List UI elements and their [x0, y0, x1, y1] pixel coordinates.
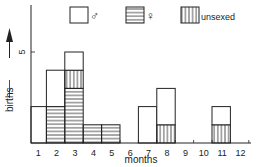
bar-segment-male-month-1	[31, 107, 46, 143]
bar-segment-male-month-2	[46, 70, 64, 106]
births-by-month-chart: 123456789101112 5 months births ♂♀unsexe…	[0, 0, 260, 167]
x-tick-label-12: 12	[236, 148, 246, 158]
x-tick-label-2: 2	[54, 148, 59, 158]
x-tick-label-5: 5	[109, 148, 114, 158]
bar-segment-unsexed-month-8	[157, 125, 175, 143]
legend-swatch-open	[70, 7, 88, 23]
legend-swatch-horizontal-stripes	[126, 7, 144, 23]
bar-segment-male-month-3	[65, 52, 83, 70]
x-tick-label-9: 9	[183, 148, 188, 158]
x-axis-label: months	[125, 154, 158, 165]
x-tick-label-8: 8	[164, 148, 169, 158]
x-tick-label-1: 1	[36, 148, 41, 158]
x-tick-label-11: 11	[218, 148, 227, 158]
bar-segment-female-month-5	[102, 125, 120, 143]
bar-segment-male-month-11	[212, 107, 230, 125]
x-tick-label-4: 4	[91, 148, 96, 158]
legend-swatch-vertical-stripes	[181, 7, 199, 23]
y-ticks: 5	[17, 49, 35, 54]
legend-label-1: ♀	[146, 9, 155, 23]
legend: ♂♀unsexed	[70, 7, 235, 23]
x-tick-label-3: 3	[72, 148, 77, 158]
bar-segment-male-month-7	[138, 107, 156, 143]
legend-label-2: unsexed	[201, 12, 235, 22]
bar-segment-female-month-2	[46, 107, 64, 143]
bar-segment-unsexed-month-11	[212, 125, 230, 143]
arrow-up-icon	[6, 28, 13, 42]
bar-segment-female-month-4	[83, 125, 101, 143]
bars-group	[31, 52, 230, 143]
bar-segment-unsexed-month-3	[65, 70, 83, 88]
bar-segment-female-month-3	[65, 88, 83, 143]
bar-segment-male-month-8	[157, 88, 175, 124]
legend-label-0: ♂	[90, 9, 99, 23]
y-tick-label-5: 5	[17, 49, 27, 54]
x-tick-label-10: 10	[199, 148, 209, 158]
